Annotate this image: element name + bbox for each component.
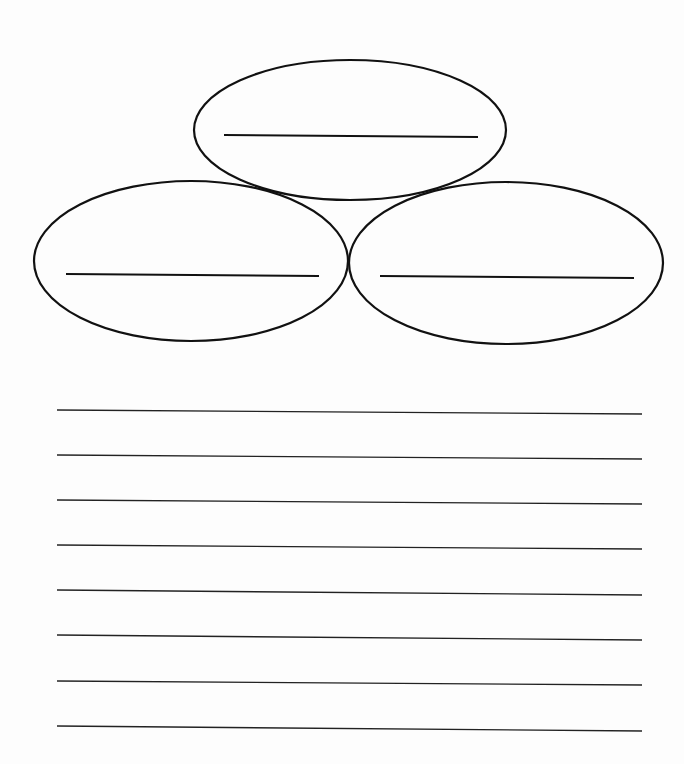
ellipse-top — [194, 60, 506, 200]
ellipse-left — [34, 181, 348, 341]
ellipse-top-answer-line — [224, 135, 478, 137]
ellipse-top-group — [194, 60, 506, 200]
writing-line-1 — [57, 410, 642, 414]
ellipse-right-group — [349, 182, 663, 344]
writing-line-8 — [57, 726, 642, 731]
writing-line-2 — [57, 455, 642, 459]
graphic-organizer — [0, 0, 684, 764]
ellipse-right — [349, 182, 663, 344]
ellipse-left-answer-line — [66, 274, 319, 276]
writing-line-7 — [57, 681, 642, 685]
writing-line-3 — [57, 500, 642, 504]
ellipse-right-answer-line — [380, 276, 634, 278]
ellipse-left-group — [34, 181, 348, 341]
writing-line-4 — [57, 545, 642, 549]
writing-line-5 — [57, 590, 642, 595]
writing-line-6 — [57, 635, 642, 640]
worksheet-page — [0, 0, 684, 764]
